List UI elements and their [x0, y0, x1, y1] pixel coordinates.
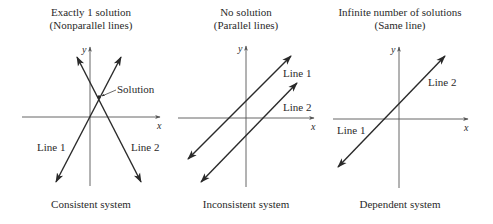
coincident-line: [338, 56, 445, 167]
x-axis-label: x: [156, 120, 162, 131]
solution-label: Solution: [117, 83, 155, 95]
line-1-label: Line 1: [337, 124, 365, 136]
graph-consistent: x y Solution Line 1 Line 2: [22, 44, 162, 186]
y-axis-label: y: [237, 43, 243, 54]
line-1: [188, 56, 291, 159]
graph-dependent: x y Line 2 Line 1: [333, 44, 469, 188]
x-axis-label: x: [310, 121, 316, 132]
line-2-label: Line 2: [283, 101, 311, 113]
y-axis-label: y: [390, 44, 396, 55]
solution-point: [97, 95, 101, 99]
line-1-label: Line 1: [37, 141, 65, 153]
line-2-label: Line 2: [428, 76, 456, 88]
graphs-canvas: x y Solution Line 1 Line 2 x y Line 1 Li…: [0, 0, 493, 224]
line-1: [56, 57, 121, 182]
graph-inconsistent: x y Line 1 Line 2: [178, 43, 316, 187]
line-2: [77, 57, 141, 182]
x-axis-label: x: [463, 122, 469, 133]
y-axis-label: y: [81, 44, 87, 55]
line-2-label: Line 2: [131, 141, 159, 153]
line-1-label: Line 1: [283, 67, 311, 79]
